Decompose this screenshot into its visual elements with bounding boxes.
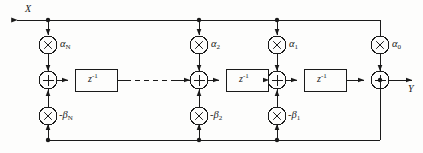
signal-flow-diagram: X Y αN α2 α1 α0 -βN -β2 -β1 z-1 z-1 z-1 xyxy=(0,0,423,153)
alpha-N-sub: N xyxy=(66,43,71,51)
coefficient-label-alpha-0: α0 xyxy=(392,39,401,50)
alpha-1-sub: 1 xyxy=(295,43,299,51)
junction-dot-bottom-bN xyxy=(46,138,50,142)
beta-1-sub: 1 xyxy=(297,114,301,122)
delay-2-exponent: -1 xyxy=(243,72,249,80)
alpha-1-base: α xyxy=(289,38,295,49)
diagram-vector-layer xyxy=(0,0,423,153)
output-label: Y xyxy=(408,84,414,94)
coefficient-label-beta-N: -βN xyxy=(59,110,73,121)
beta-N-base: β xyxy=(63,109,68,120)
junction-dot-output-tap xyxy=(378,78,382,82)
junction-dot-bottom-b2 xyxy=(197,138,201,142)
alpha-0-base: α xyxy=(392,38,398,49)
coefficient-label-alpha-2: α2 xyxy=(211,39,220,50)
delay-label-2: z-1 xyxy=(239,74,249,84)
beta-N-sub: N xyxy=(68,114,73,122)
junction-dot-bottom-b1 xyxy=(275,138,279,142)
coefficient-label-alpha-N: αN xyxy=(60,39,71,50)
alpha-0-sub: 0 xyxy=(398,43,402,51)
alpha-2-sub: 2 xyxy=(217,43,221,51)
beta-1-base: β xyxy=(292,109,297,120)
coefficient-label-alpha-1: α1 xyxy=(289,39,298,50)
beta-2-sub: 2 xyxy=(219,114,223,122)
alpha-N-base: α xyxy=(60,38,66,49)
junction-dot-top-aN xyxy=(46,18,50,22)
junction-dot-top-a2 xyxy=(197,18,201,22)
coefficient-label-beta-1: -β1 xyxy=(288,110,300,121)
junction-dot-top-a1 xyxy=(275,18,279,22)
delay-label-3: z-1 xyxy=(317,74,327,84)
delay-1-exponent: -1 xyxy=(92,72,98,80)
delay-label-1: z-1 xyxy=(88,74,98,84)
alpha-2-base: α xyxy=(211,38,217,49)
coefficient-label-beta-2: -β2 xyxy=(210,110,222,121)
delay-3-exponent: -1 xyxy=(321,72,327,80)
input-label: X xyxy=(25,4,31,14)
beta-2-base: β xyxy=(214,109,219,120)
